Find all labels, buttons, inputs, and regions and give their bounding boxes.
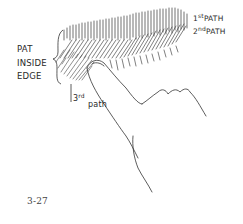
figure-number: 3-27 (27, 197, 48, 206)
pat-inside-edge-label: PAT INSIDE EDGE (17, 43, 47, 84)
third-path-word-label: path (88, 101, 107, 109)
pat-label-line-3: EDGE (17, 70, 47, 84)
brace (53, 30, 63, 84)
hand-drawing (87, 60, 206, 192)
pat-label-line-1: PAT (17, 43, 47, 57)
pat-label-line-2: INSIDE (17, 57, 47, 71)
third-path-ordinal-label: 3rd (73, 93, 85, 103)
first-path-label: 1stPATH (193, 13, 224, 23)
second-path-label: 2ndPATH (193, 26, 226, 36)
first-path-strokes (64, 8, 187, 40)
